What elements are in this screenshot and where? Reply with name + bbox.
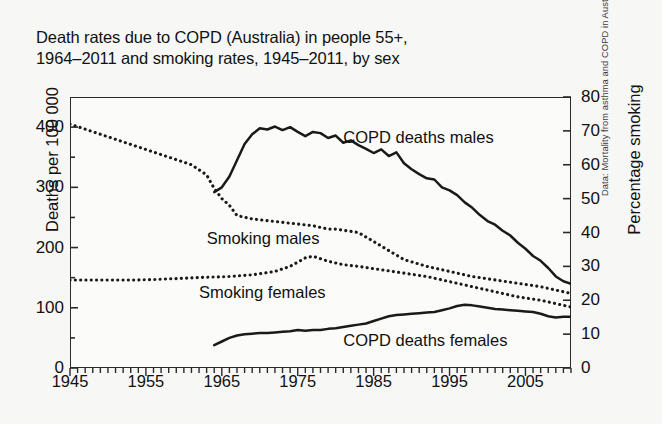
- y-axis-right-tick-label: 10: [581, 324, 627, 344]
- series-label-smoking-males: Smoking males: [207, 229, 320, 248]
- y-axis-right-tick-label: 30: [581, 256, 627, 276]
- x-axis-tick-label: 1955: [111, 372, 181, 391]
- y-axis-left-tick-label: 200: [18, 238, 64, 258]
- series-label-copd-deaths-females: COPD deaths females: [343, 331, 507, 350]
- source-note: Data: Mortality from asthma and COPD in …: [600, 0, 610, 196]
- chart-title-line-2: 1964–2011 and smoking rates, 1945–2011, …: [36, 48, 596, 69]
- series-line-smoking-males: [70, 124, 571, 293]
- chart-title: Death rates due to COPD (Australia) in p…: [36, 27, 596, 69]
- series-line-copd-deaths-males: [214, 127, 571, 284]
- y-axis-right-title: Percentage smoking: [625, 20, 644, 300]
- chart-figure: Death rates due to COPD (Australia) in p…: [0, 0, 662, 424]
- x-axis-tick-label: 1945: [35, 372, 105, 391]
- y-axis-left-ticks: 0100200300400: [18, 97, 64, 368]
- x-axis-tick-label: 2005: [490, 372, 560, 391]
- chart-title-line-1: Death rates due to COPD (Australia) in p…: [36, 27, 596, 48]
- x-axis-tick-label: 1975: [263, 372, 333, 391]
- series-label-copd-deaths-males: COPD deaths males: [343, 128, 493, 147]
- x-axis-tick-label: 1985: [339, 372, 409, 391]
- y-axis-left-tick-label: 100: [18, 298, 64, 318]
- y-axis-right-tick-label: 0: [581, 358, 627, 378]
- x-axis-ticks: 1945195519651975198519952005: [70, 372, 571, 396]
- series-label-smoking-females: Smoking females: [199, 283, 326, 302]
- y-axis-right-tick-label: 20: [581, 290, 627, 310]
- y-axis-left-tick-label: 400: [18, 117, 64, 137]
- y-axis-left-tick-label: 300: [18, 177, 64, 197]
- y-axis-right-tick-label: 40: [581, 223, 627, 243]
- x-axis-tick-label: 1965: [187, 372, 257, 391]
- x-axis-tick-label: 1995: [415, 372, 485, 391]
- plot-canvas: [70, 97, 571, 368]
